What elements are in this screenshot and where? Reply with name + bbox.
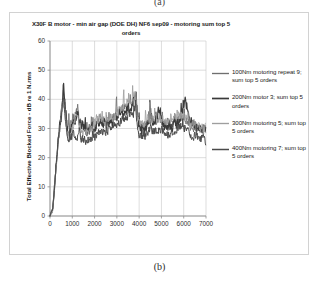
x-axis-tick-label: 2000 [83, 220, 107, 227]
figure-caption-top: (a) [0, 0, 319, 8]
legend-item[interactable]: 200Nm motor 3; sum top 5 orders [211, 93, 309, 109]
legend-line-swatch-icon [212, 148, 229, 151]
legend-item[interactable]: 100Nm motoring repeat 9; sum top 5 order… [211, 68, 309, 84]
chart-legend: 100Nm motoring repeat 9; sum top 5 order… [211, 68, 309, 170]
y-axis-tick-label: 40 [29, 95, 45, 102]
y-axis-tick-label: 20 [29, 154, 45, 161]
legend-item-label: 200Nm motor 3; sum top 5 orders [232, 93, 303, 108]
y-axis-tick-label: 10 [29, 183, 45, 190]
legend-line-swatch-icon [212, 122, 229, 125]
x-axis-tick-label: 3000 [105, 220, 129, 227]
legend-item[interactable]: 400Nm motoring 7; sum top 5 orders [211, 144, 309, 160]
y-axis-tick-label: 50 [29, 66, 45, 73]
figure-caption-bottom: (b) [0, 261, 319, 272]
legend-item-label: 400Nm motoring 7; sum top 5 orders [232, 144, 306, 159]
y-axis-tick-label: 60 [29, 37, 45, 44]
chart-container: X30F B motor - min air gap (DOE DH) NF6 … [9, 12, 309, 255]
legend-item[interactable]: 300Nm motoring 5; sum top 5 orders [211, 119, 309, 135]
legend-item-label: 300Nm motoring 5; sum top 5 orders [232, 119, 306, 134]
legend-line-swatch-icon [212, 97, 229, 100]
legend-line-swatch-icon [212, 72, 229, 75]
x-axis-tick-label: 7000 [194, 220, 218, 227]
figure: (a) X30F B motor - min air gap (DOE DH) … [0, 0, 319, 282]
legend-item-label: 100Nm motoring repeat 9; sum top 5 order… [232, 68, 302, 83]
y-axis-tick-label: 30 [29, 125, 45, 132]
x-axis-tick-label: 4000 [127, 220, 151, 227]
y-axis-tick-label: 0 [29, 212, 45, 219]
x-axis-tick-label: 0 [38, 220, 62, 227]
x-axis-tick-label: 1000 [60, 220, 84, 227]
x-axis-tick-label: 5000 [149, 220, 173, 227]
x-axis-tick-label: 6000 [172, 220, 196, 227]
